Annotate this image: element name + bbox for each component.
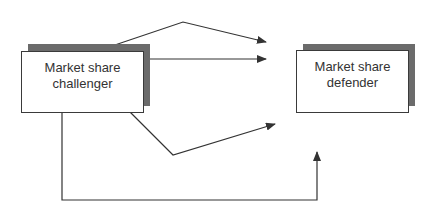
arrow-under <box>130 112 275 155</box>
defender-node: Market share defender <box>296 50 409 113</box>
challenger-label-line2: challenger <box>22 76 143 92</box>
defender-label-line2: defender <box>297 75 408 91</box>
challenger-node: Market share challenger <box>21 51 144 113</box>
challenger-label-line1: Market share <box>22 60 143 76</box>
defender-label-line1: Market share <box>297 59 408 75</box>
arrow-bottom-loop <box>62 112 317 200</box>
diagram-canvas: Market share challenger Market share def… <box>0 0 435 208</box>
